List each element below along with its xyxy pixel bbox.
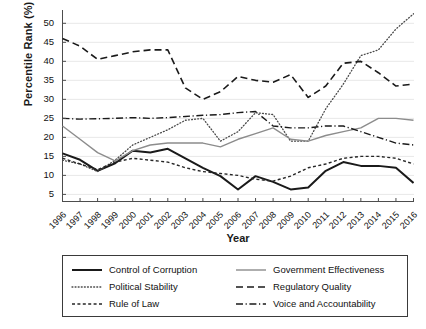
y-tick-label: 10 <box>28 170 54 180</box>
series-line-regulatory-quality <box>63 39 414 100</box>
legend-item[interactable]: Political Stability <box>71 281 235 292</box>
legend-label: Political Stability <box>109 281 178 292</box>
y-tick-label: 40 <box>28 56 54 66</box>
legend-swatch-regulatory-quality <box>235 282 267 292</box>
legend-item[interactable]: Voice and Accountability <box>235 298 399 309</box>
series-line-government-effectiveness <box>63 118 414 161</box>
legend-label: Control of Corruption <box>109 264 197 275</box>
y-tick-label: 45 <box>28 37 54 47</box>
y-tick-label: 30 <box>28 94 54 104</box>
legend-swatch-government-effectiveness <box>235 265 267 275</box>
legend-label: Rule of Law <box>109 298 159 309</box>
chart-figure: Percentile Rank (%) 5101520253035404550 … <box>0 0 426 329</box>
legend-swatch-rule-of-law <box>71 299 103 309</box>
y-tick-label: 50 <box>28 18 54 28</box>
y-tick-label: 15 <box>28 151 54 161</box>
y-tick-label: 25 <box>28 113 54 123</box>
series-line-political-stability <box>63 14 414 172</box>
y-tick-label: 35 <box>28 75 54 85</box>
legend-label: Regulatory Quality <box>273 281 351 292</box>
chart-canvas <box>62 10 414 202</box>
legend-swatch-voice-and-accountability <box>235 299 267 309</box>
x-axis-title: Year <box>62 232 414 244</box>
series-line-control-of-corruption <box>63 149 414 190</box>
legend-swatch-political-stability <box>71 282 103 292</box>
series-line-rule-of-law <box>63 156 414 181</box>
legend-label: Government Effectiveness <box>273 264 384 275</box>
legend-item[interactable]: Rule of Law <box>71 298 235 309</box>
chart-legend: Control of CorruptionGovernment Effectiv… <box>62 255 408 317</box>
legend-swatch-control-of-corruption <box>71 265 103 275</box>
legend-item[interactable]: Control of Corruption <box>71 264 235 275</box>
y-tick-label: 20 <box>28 132 54 142</box>
legend-item[interactable]: Regulatory Quality <box>235 281 399 292</box>
legend-item[interactable]: Government Effectiveness <box>235 264 399 275</box>
plot-area <box>62 10 414 202</box>
y-tick-label: 5 <box>28 189 54 199</box>
legend-label: Voice and Accountability <box>273 298 375 309</box>
